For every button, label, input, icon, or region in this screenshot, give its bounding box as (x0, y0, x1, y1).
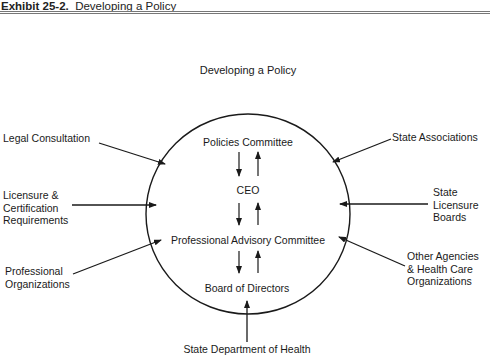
input-state-associations: State Associations (392, 131, 478, 144)
arrow-professional-organizations (73, 240, 161, 274)
input-state-licensure-boards: State Licensure Boards (433, 186, 479, 224)
arrow-legal-consultation (99, 143, 165, 164)
arrow-other-agencies (339, 237, 405, 266)
node-ceo: CEO (237, 184, 260, 197)
node-policies-committee: Policies Committee (203, 136, 293, 149)
input-legal-consultation: Legal Consultation (3, 132, 90, 145)
input-professional-organizations: Professional Organizations (5, 265, 70, 290)
input-licensure-certification: Licensure & Certification Requirements (3, 189, 68, 227)
arrow-state-associations (333, 139, 391, 162)
diagram-title: Developing a Policy (200, 64, 297, 77)
input-state-department-of-health: State Department of Health (183, 343, 310, 356)
node-board-of-directors: Board of Directors (205, 282, 290, 295)
input-other-agencies: Other Agencies & Health Care Organizatio… (407, 250, 479, 288)
node-professional-advisory-committee: Professional Advisory Committee (171, 234, 325, 247)
diagram-canvas (0, 0, 490, 356)
